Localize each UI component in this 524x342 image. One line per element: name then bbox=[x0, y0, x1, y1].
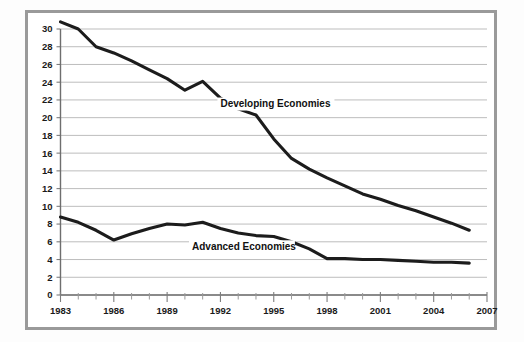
y-axis-label-10: 10 bbox=[42, 201, 53, 212]
series-line-developing-economies bbox=[61, 22, 470, 230]
gridlines-group bbox=[61, 29, 488, 295]
y-axis-label-2: 2 bbox=[47, 272, 52, 283]
annotation-label-developing-economies: Developing Economies bbox=[220, 98, 330, 109]
y-axis-labels-group: 024681012141618202224262830 bbox=[42, 23, 53, 300]
y-axis-label-16: 16 bbox=[42, 148, 53, 159]
x-axis-label-1989: 1989 bbox=[157, 305, 178, 316]
y-axis-label-14: 14 bbox=[42, 165, 53, 176]
y-axis-label-0: 0 bbox=[47, 289, 52, 300]
y-axis-label-28: 28 bbox=[42, 41, 53, 52]
x-axis-label-2004: 2004 bbox=[423, 305, 445, 316]
y-axis-label-12: 12 bbox=[42, 183, 53, 194]
x-axis-label-1983: 1983 bbox=[50, 305, 71, 316]
y-axis-label-26: 26 bbox=[42, 59, 53, 70]
y-axis-label-6: 6 bbox=[47, 236, 52, 247]
chart-plot-wrapper: 024681012141618202224262830 198319861989… bbox=[0, 0, 524, 342]
y-axis-label-22: 22 bbox=[42, 94, 53, 105]
y-axis-label-4: 4 bbox=[47, 254, 53, 265]
x-axis-group bbox=[61, 29, 488, 295]
line-chart-svg: 024681012141618202224262830 198319861989… bbox=[0, 0, 524, 342]
y-axis-label-20: 20 bbox=[42, 112, 53, 123]
x-axis-labels-group: 198319861989199219951998200120042007 bbox=[50, 305, 498, 316]
chart-figure: 024681012141618202224262830 198319861989… bbox=[0, 0, 524, 342]
x-axis-label-1995: 1995 bbox=[263, 305, 285, 316]
x-axis-label-2001: 2001 bbox=[370, 305, 392, 316]
y-axis-label-30: 30 bbox=[42, 23, 53, 34]
y-axis-label-18: 18 bbox=[42, 130, 53, 141]
x-axis-label-1986: 1986 bbox=[103, 305, 124, 316]
annotation-label-advanced-economies: Advanced Economies bbox=[192, 241, 296, 252]
x-axis-label-1998: 1998 bbox=[316, 305, 337, 316]
x-tick-group bbox=[61, 292, 488, 302]
y-axis-label-8: 8 bbox=[47, 218, 52, 229]
y-axis-label-24: 24 bbox=[42, 77, 53, 88]
x-axis-label-2007: 2007 bbox=[476, 305, 497, 316]
x-axis-label-1992: 1992 bbox=[210, 305, 231, 316]
series-lines-group bbox=[61, 22, 470, 263]
